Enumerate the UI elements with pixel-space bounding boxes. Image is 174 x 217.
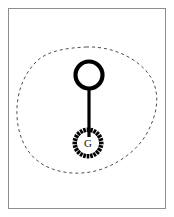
- open-circle-node-icon: [76, 62, 103, 89]
- radial-tick: [91, 154, 92, 158]
- radial-tick: [80, 153, 82, 157]
- radial-tick: [77, 132, 80, 135]
- radial-tick: [98, 149, 102, 151]
- radial-tick: [94, 130, 96, 134]
- radial-tick: [77, 151, 80, 154]
- radial-tick: [96, 151, 99, 154]
- radial-tick: [84, 154, 85, 158]
- radial-tick: [91, 128, 92, 132]
- radial-tick: [80, 130, 82, 134]
- radial-tick: [94, 153, 96, 157]
- g-label: G: [84, 137, 92, 149]
- radial-tick: [96, 132, 99, 135]
- radial-tick: [75, 135, 79, 137]
- figure-root: G: [0, 0, 174, 217]
- radial-tick: [84, 128, 85, 132]
- radial-tick: [99, 146, 103, 147]
- radial-tick: [98, 135, 102, 137]
- radial-tick: [73, 139, 77, 140]
- radial-tick: [75, 149, 79, 151]
- radial-tick: [99, 139, 103, 140]
- diagram-canvas: G: [0, 0, 174, 217]
- radial-tick: [73, 146, 77, 147]
